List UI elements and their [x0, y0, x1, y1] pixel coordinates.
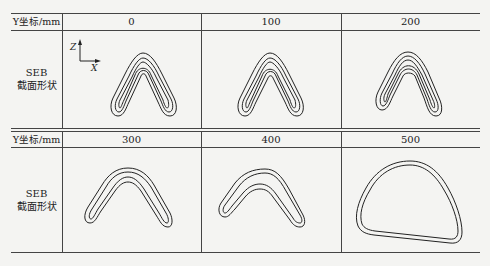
y-coordinate-header: Y坐标/mm [11, 131, 62, 147]
header1-rule [11, 30, 480, 31]
section-shape-y500 [352, 158, 472, 248]
col-divider-2a [201, 13, 202, 128]
axis-arrows-icon [70, 37, 110, 77]
header2-rule [11, 147, 480, 148]
y-coordinate-header: Y坐标/mm [11, 13, 62, 30]
col-divider-2b [201, 131, 202, 252]
col-divider-1b [62, 131, 63, 252]
y-value-cell: 200 [341, 13, 480, 30]
section-rule-a [11, 128, 480, 129]
seb-section-label: SEB 截面形状 [11, 30, 62, 128]
col-divider-1a [62, 13, 63, 128]
y-value-cell: 100 [201, 13, 341, 30]
col-divider-3b [341, 131, 342, 252]
y-value-cell: 500 [341, 131, 480, 147]
section-shape-y200 [370, 48, 450, 123]
y-value-cell: 300 [62, 131, 201, 147]
section-shape-y0 [105, 48, 185, 123]
section-shape-y400 [215, 165, 315, 235]
seb-section-label: SEB 截面形状 [11, 147, 62, 252]
section-shape-y100 [232, 48, 312, 123]
section-shape-y300 [80, 163, 180, 233]
table-bottom-rule [11, 252, 480, 253]
col-divider-3a [341, 13, 342, 128]
y-value-cell: 400 [201, 131, 341, 147]
y-value-cell: 0 [62, 13, 201, 30]
axes-indicator: Z X [70, 37, 110, 77]
